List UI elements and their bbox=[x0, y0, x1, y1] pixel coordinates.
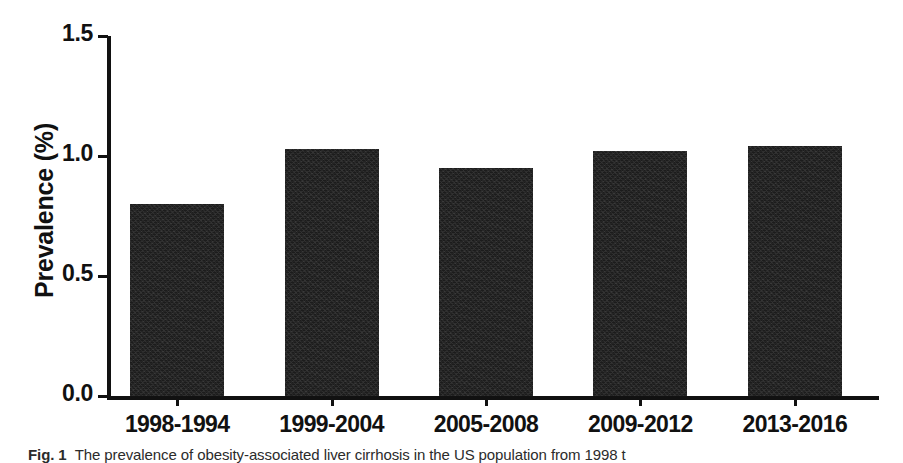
y-axis-tick-label: 1.5 bbox=[23, 20, 93, 47]
y-axis-tick-label: 0.5 bbox=[23, 260, 93, 287]
y-axis-tick-labels: 0.00.51.01.5 bbox=[23, 30, 93, 398]
y-axis-tick-label: 0.0 bbox=[23, 380, 93, 407]
caption-text: The prevalence of obesity-associated liv… bbox=[75, 446, 626, 463]
x-axis-category-label: 2013-2016 bbox=[718, 411, 872, 438]
bar bbox=[130, 204, 224, 396]
bar bbox=[593, 151, 687, 396]
plot-area: 0.00.51.01.5 1998-19941999-20042005-2008… bbox=[107, 30, 879, 398]
bar bbox=[748, 146, 842, 396]
y-axis-tick-mark bbox=[98, 395, 108, 398]
x-axis-tick-mark bbox=[794, 396, 797, 406]
y-axis-tick-mark bbox=[98, 35, 108, 38]
x-axis-category-label: 2009-2012 bbox=[563, 411, 717, 438]
figure-number: Fig. 1 bbox=[28, 446, 67, 463]
x-axis-tick-mark bbox=[331, 396, 334, 406]
y-axis-tick-mark bbox=[98, 275, 108, 278]
figure-caption: Fig. 1 The prevalence of obesity-associa… bbox=[28, 446, 888, 463]
y-axis-tick-mark bbox=[98, 155, 108, 158]
x-axis-tick-mark bbox=[176, 396, 179, 406]
x-axis-category-label: 1998-1994 bbox=[100, 411, 254, 438]
x-axis-tick-mark bbox=[485, 396, 488, 406]
y-axis-line bbox=[107, 36, 111, 398]
bar bbox=[439, 168, 533, 396]
caption-text-spacer bbox=[67, 446, 75, 463]
bar bbox=[285, 149, 379, 396]
x-axis-line bbox=[107, 396, 879, 400]
x-axis-tick-mark bbox=[639, 396, 642, 406]
x-axis-category-label: 1999-2004 bbox=[254, 411, 408, 438]
x-axis-category-label: 2005-2008 bbox=[409, 411, 563, 438]
y-axis-tick-label: 1.0 bbox=[23, 140, 93, 167]
